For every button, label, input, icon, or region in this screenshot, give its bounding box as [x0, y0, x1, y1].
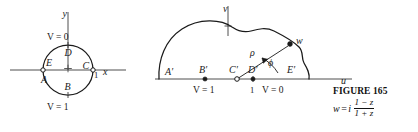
x-axis-label: x: [102, 66, 108, 77]
point-label-w: w: [296, 35, 303, 46]
v-axis-label: v: [223, 3, 228, 14]
rho-label: ρ: [249, 47, 255, 58]
formula-equals: =: [341, 103, 347, 114]
formula-imaginary-unit: i: [348, 103, 351, 114]
formula-fraction: 1 − z 1 + z: [354, 98, 375, 118]
left-boundary-top-label: V = 0: [47, 32, 69, 42]
point-label-D: D: [64, 47, 73, 58]
point-label-E-prime: E′: [286, 64, 296, 75]
right-boundary-right-label: V = 0: [262, 85, 284, 95]
y-axis-label: y: [62, 8, 68, 19]
point-label-C-prime: C′: [229, 64, 239, 75]
right-boundary-left-label: V = 1: [193, 85, 215, 95]
point-label-B: B: [65, 81, 71, 92]
left-boundary-bottom-label: V = 1: [47, 102, 69, 112]
x-unit-tick-label: 1: [94, 70, 98, 80]
figure-caption-title: FIGURE 165: [333, 86, 418, 97]
formula-denominator: 1 + z: [354, 108, 375, 119]
point-marker-E: [41, 68, 45, 72]
point-label-B-prime: B′: [199, 64, 208, 75]
formula-lhs: w: [333, 103, 340, 114]
point-marker-B-prime: [203, 77, 207, 81]
left-plane-group: y x V = 0 V = 1 D C B A E 1: [10, 8, 126, 113]
u-unit-tick-label: 1: [250, 85, 254, 95]
point-marker-C-prime: [235, 77, 240, 82]
rho-ray: [237, 46, 288, 79]
point-label-A: A: [40, 74, 48, 85]
u-axis-label: u: [341, 75, 346, 86]
point-label-C: C: [83, 60, 90, 71]
point-label-A-prime: A′: [164, 66, 174, 77]
right-plane-group: v u A′ B′ C′ D′ E′ w ρ ϕ V = 1 V = 0 1: [155, 3, 352, 96]
point-label-D-prime: D′: [247, 64, 258, 75]
phi-label: ϕ: [268, 57, 273, 68]
point-marker-w: [288, 42, 293, 47]
interior-plus-icon: [64, 65, 72, 73]
formula-numerator: 1 − z: [354, 98, 375, 108]
figure-caption: FIGURE 165 w = i 1 − z 1 + z: [333, 86, 418, 118]
figure-caption-formula: w = i 1 − z 1 + z: [333, 98, 418, 118]
figure-container: y x V = 0 V = 1 D C B A E 1: [0, 0, 418, 132]
point-label-E: E: [45, 57, 52, 68]
point-marker-D-prime: [251, 77, 255, 81]
